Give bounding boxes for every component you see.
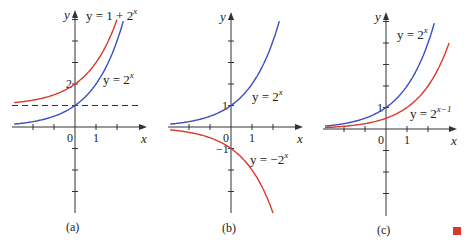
figure: 012xyy = 1 + 2xy = 2x(a)011−1xyy = 2xy =… <box>0 0 469 243</box>
end-marker-icon <box>453 227 461 235</box>
y-axis-label: y <box>218 9 226 24</box>
curve-label-exponent: x <box>423 25 428 35</box>
curve-red <box>14 20 117 103</box>
x-tick-label: 0 <box>67 131 73 145</box>
panel-label: (c) <box>377 223 390 237</box>
x-tick-label: 1 <box>249 131 255 145</box>
curve-label: y = −2x <box>250 150 288 167</box>
curve-label-main: y = 1 + 2 <box>86 8 133 23</box>
curve-label-exponent: x <box>278 87 283 97</box>
y-axis-label: y <box>62 7 70 22</box>
curve-red <box>170 130 273 213</box>
curve-label: y = 1 + 2x <box>86 6 137 23</box>
x-tick-label: 1 <box>404 133 410 147</box>
curve-label-exponent: x <box>129 70 134 80</box>
curve-label: y = 2x <box>103 70 134 87</box>
x-axis-label: x <box>296 131 303 146</box>
panel-c: 011xyy = 2xy = 2x−1(c) <box>323 9 457 237</box>
y-axis-label: y <box>373 9 381 24</box>
panel-label: (a) <box>66 220 79 234</box>
curve-label: y = 2x <box>397 25 428 42</box>
curve-label-exponent: x <box>283 150 288 160</box>
y-axis-arrow-icon <box>383 12 389 20</box>
x-axis-arrow-icon <box>139 124 147 130</box>
panel-a: 012xyy = 1 + 2xy = 2x(a) <box>12 6 147 234</box>
curve-label: y = 2x−1 <box>410 104 451 121</box>
curve-label-exponent: x <box>132 6 137 16</box>
curve-label-main: y = 2 <box>103 72 130 87</box>
y-axis-arrow-icon <box>228 12 234 20</box>
x-axis-label: x <box>140 131 147 146</box>
x-axis-arrow-icon <box>449 126 457 132</box>
x-tick-label: 0 <box>378 133 384 147</box>
panel-label: (b) <box>222 221 236 235</box>
curve-label-main: y = 2 <box>397 27 424 42</box>
curve-label-exponent: x−1 <box>436 104 452 114</box>
x-axis-arrow-icon <box>295 124 303 130</box>
x-tick-label: 1 <box>93 131 99 145</box>
curve-label-main: y = 2 <box>410 106 437 121</box>
curve-label-main: y = −2 <box>250 152 284 167</box>
curve-label-main: y = 2 <box>252 89 279 104</box>
y-axis-arrow-icon <box>72 10 78 18</box>
panel-b: 011−1xyy = 2xy = −2x(b) <box>168 9 303 235</box>
x-axis-label: x <box>450 133 457 148</box>
curve-label: y = 2x <box>252 87 283 104</box>
